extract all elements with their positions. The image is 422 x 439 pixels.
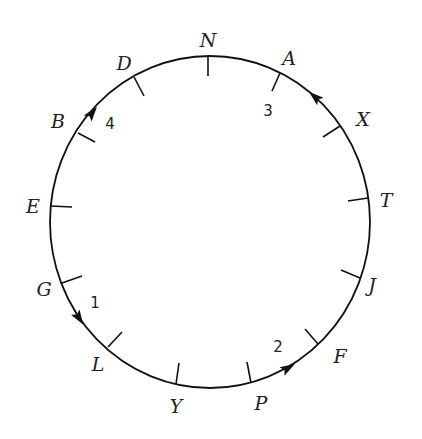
station-label-g: G	[36, 278, 51, 300]
arrowhead-icon-step-4	[84, 104, 101, 122]
station-tick-l	[108, 332, 122, 347]
station-label-p: P	[254, 392, 269, 414]
station-label-b: B	[50, 110, 65, 132]
station-label-d: D	[115, 52, 131, 74]
station-label-t: T	[380, 189, 394, 211]
station-tick-t	[348, 198, 368, 201]
station-label-j: J	[364, 274, 377, 296]
station-tick-a	[272, 73, 280, 91]
route-circle	[50, 56, 370, 388]
station-tick-b	[78, 133, 95, 142]
step-labels: 1234	[90, 102, 283, 356]
station-tick-p	[247, 362, 251, 383]
station-label-l: L	[91, 353, 105, 375]
station-ticks	[51, 56, 368, 384]
station-labels: NAXTJFPYLGEBD	[25, 29, 394, 417]
step-number-3: 3	[263, 102, 273, 120]
station-tick-d	[134, 77, 144, 96]
station-tick-y	[176, 363, 179, 384]
station-label-a: A	[280, 47, 296, 69]
step-number-2: 2	[273, 338, 283, 356]
station-tick-j	[341, 270, 360, 278]
station-label-e: E	[25, 195, 40, 217]
step-number-1: 1	[90, 294, 100, 312]
station-tick-e	[51, 206, 72, 207]
station-label-f: F	[332, 345, 347, 367]
station-tick-x	[323, 126, 340, 137]
station-label-x: X	[354, 108, 371, 130]
station-label-n: N	[199, 29, 218, 51]
station-tick-f	[305, 329, 318, 344]
step-number-4: 4	[105, 115, 115, 133]
circular-route-diagram: NAXTJFPYLGEBD 1234	[0, 0, 422, 439]
station-tick-g	[62, 276, 82, 283]
station-label-y: Y	[170, 395, 185, 417]
